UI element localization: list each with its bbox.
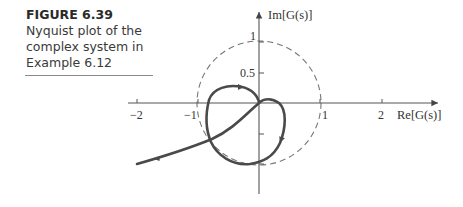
- x-axis-label: Re[G(s)]: [397, 108, 441, 122]
- x-tick-label-neg2: −2: [130, 108, 143, 122]
- nyquist-curve: [137, 86, 285, 164]
- direction-arrow-icon: [238, 84, 244, 90]
- y-axis-label: Im[G(s)]: [268, 8, 312, 22]
- nyquist-plot: −2 −1 1 2 1 0.5 Im[G(s)] Re[G(s)]: [0, 0, 463, 207]
- x-tick-label-neg1: −1: [184, 108, 197, 122]
- x-tick-label-1: 1: [322, 108, 328, 122]
- y-tick-label-0-5: 0.5: [240, 66, 255, 80]
- y-tick-label-1: 1: [250, 29, 256, 43]
- x-tick-label-2: 2: [378, 108, 384, 122]
